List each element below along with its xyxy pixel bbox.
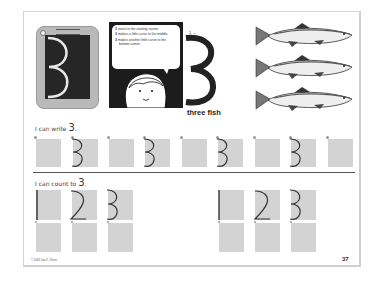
fish-illustration-2: [254, 55, 358, 83]
chalk-three-icon: [45, 35, 90, 99]
write-box-5[interactable]: [182, 139, 207, 167]
digit-one-glyph: [34, 189, 40, 221]
fish-illustration-1: [254, 23, 358, 51]
teacher-face-illustration: [113, 68, 179, 108]
instruction-1: 3starts in the starting corner.: [115, 27, 177, 31]
digit-two-glyph: [69, 189, 87, 221]
instruction-2: 3makes a little curve to the middle.: [115, 32, 177, 36]
write-section-label: I can write 3.: [35, 122, 77, 133]
copyright-notice: © 2002 Jan Z. Olsen: [31, 258, 57, 262]
write-box-3[interactable]: [109, 139, 134, 167]
page-number: 37: [342, 256, 349, 262]
count-box[interactable]: [219, 190, 244, 220]
digit-one-glyph: [216, 189, 222, 221]
count-answer-box[interactable]: [36, 223, 61, 252]
write-box-9[interactable]: [328, 139, 353, 167]
digit-three-glyph: [289, 189, 303, 221]
three-fish-caption: three fish: [187, 108, 221, 117]
speech-bubble: 3starts in the starting corner. 3makes a…: [112, 25, 180, 69]
count-answer-box[interactable]: [219, 223, 244, 252]
count-answer-box[interactable]: [255, 223, 280, 252]
count-section-label: I can count to 3.: [35, 177, 86, 188]
tablet-screen: [45, 35, 90, 99]
trace-three-glyph: [143, 138, 157, 168]
count-answer-box[interactable]: [291, 223, 316, 252]
trace-three-glyph: [289, 138, 303, 168]
teacher-cartoon-panel: 3starts in the starting corner. 3makes a…: [109, 22, 183, 108]
fish-illustration-3: [254, 87, 358, 115]
teacher-face-icon: [113, 68, 179, 108]
big-three-digit: [183, 34, 217, 106]
count-answer-box[interactable]: [108, 223, 133, 252]
count-answer-box[interactable]: [72, 223, 97, 252]
section-divider: [33, 172, 355, 173]
write-box-1[interactable]: [36, 139, 61, 167]
digit-three-glyph: [106, 189, 120, 221]
instruction-3: 3makes another little curve to the botto…: [115, 38, 177, 47]
trace-three-glyph: [216, 138, 230, 168]
write-box-7[interactable]: [255, 139, 280, 167]
digit-two-glyph: [253, 189, 271, 221]
trace-three-glyph: [71, 138, 85, 168]
slate-tablet-illustration: [36, 26, 99, 109]
